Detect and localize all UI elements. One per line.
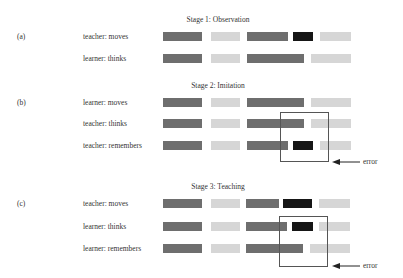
row-label: learner: thinks	[83, 222, 126, 231]
segment-light	[211, 141, 240, 150]
stage-title: Stage 3: Teaching	[118, 182, 318, 191]
stage-label: (b)	[17, 98, 26, 107]
arrow-left-icon	[332, 158, 362, 166]
segment-dark	[246, 199, 279, 208]
segment-dark	[163, 119, 202, 128]
segment-light	[211, 244, 240, 253]
stage-label: (a)	[17, 32, 25, 41]
row-label: learner: remembers	[83, 244, 141, 253]
segment-dark	[163, 98, 202, 107]
segment-black	[293, 32, 313, 41]
segment-dark	[163, 244, 202, 253]
stage-label: (c)	[17, 199, 25, 208]
segment-light	[211, 54, 240, 63]
segment-dark	[247, 98, 304, 107]
segment-dark	[163, 32, 202, 41]
segment-dark	[247, 32, 288, 41]
segment-light	[211, 119, 240, 128]
segment-light	[311, 98, 351, 107]
arrow-left-icon	[332, 262, 362, 270]
stage-title: Stage 1: Observation	[118, 15, 318, 24]
error-highlight-box	[280, 112, 329, 162]
row-label: teacher: remembers	[83, 141, 142, 150]
segment-light	[211, 32, 240, 41]
segment-dark	[163, 199, 202, 208]
segment-black	[283, 199, 312, 208]
error-label: error	[363, 157, 378, 166]
error-highlight-box	[279, 216, 328, 267]
segment-light	[211, 98, 240, 107]
segment-dark	[163, 54, 202, 63]
segment-light	[211, 222, 240, 231]
segment-light	[211, 199, 240, 208]
segment-light	[319, 199, 350, 208]
segment-light	[311, 54, 351, 63]
segment-light	[320, 32, 351, 41]
error-label: error	[363, 261, 378, 270]
segment-dark	[163, 141, 202, 150]
row-label: teacher: moves	[83, 32, 128, 41]
segment-dark	[163, 222, 202, 231]
row-label: learner: thinks	[83, 54, 126, 63]
row-label: learner: moves	[83, 98, 127, 107]
row-label: teacher: moves	[83, 199, 128, 208]
row-label: teacher: thinks	[83, 119, 127, 128]
segment-dark	[247, 54, 304, 63]
stage-title: Stage 2: Imitation	[118, 81, 318, 90]
